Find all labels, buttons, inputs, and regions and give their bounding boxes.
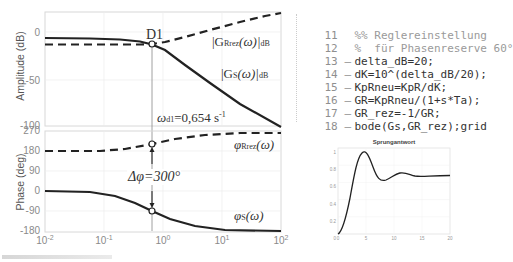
step-ytick: 0.4	[326, 196, 336, 213]
step-xtick-10: 10	[389, 236, 399, 241]
step-yticks: 1 0.8 0.6 0.4 0.2 0	[326, 144, 336, 247]
step-xtick-20: 20	[445, 236, 455, 241]
step-ytick: 0.6	[326, 178, 336, 195]
step-xtick-15: 15	[417, 236, 427, 241]
step-xtick-5: 5	[361, 236, 371, 241]
step-ytick: 0.8	[326, 161, 336, 178]
step-ytick: 1	[326, 144, 336, 161]
step-xtick-0: 0	[333, 236, 343, 241]
step-ytick: 0.2	[326, 213, 336, 230]
